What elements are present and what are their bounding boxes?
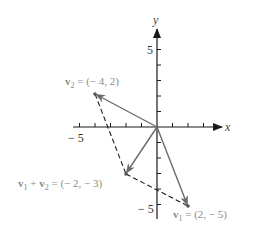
- point-v2: [93, 92, 97, 96]
- vector-v2-arrow: [97, 95, 157, 127]
- vector-sum-arrow: [127, 127, 157, 172]
- label-sum: v1 + v2 = (− 2, − 3): [18, 177, 102, 192]
- y-tick-label-5: 5: [147, 43, 153, 57]
- y-tick-label-neg5: − 5: [138, 202, 154, 216]
- y-axis-label: y: [152, 13, 159, 27]
- label-v1: v1 = (2, − 5): [173, 208, 227, 223]
- x-axis-label: x: [224, 120, 231, 134]
- label-v2: v2 = (− 4, 2): [65, 75, 119, 90]
- dashed-edge-v2-to-sum: [95, 94, 126, 174]
- point-sum: [124, 172, 128, 176]
- x-tick-label-neg5: − 5: [68, 131, 84, 145]
- vector-diagram: − 5 5 − 5 x y v2 = (− 4, 2) v1 + v2 = (−…: [0, 0, 253, 237]
